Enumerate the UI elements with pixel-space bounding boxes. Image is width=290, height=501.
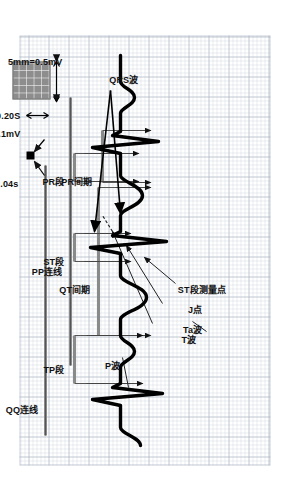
legend-time-large: 5mm=0.20S	[0, 112, 21, 121]
legend-time-small: 1mm=0.04s	[0, 180, 19, 189]
legend-small-box-swatch	[27, 152, 35, 160]
legend-voltage-arrow	[54, 62, 60, 102]
legend-voltage-small: 1mm=0.1mV	[0, 130, 21, 139]
legend-layer	[20, 36, 271, 466]
legend-large-box-swatch	[13, 62, 51, 100]
ecg-diagram-stage: T波 ST段测量点 J点 Ta波 QRS波 P波 TP段 QQ连线 PP连线 S…	[0, 0, 290, 501]
legend-time-arrow	[27, 113, 49, 119]
legend-voltage-large: 5mm=0.5mV	[8, 58, 63, 67]
ecg-figure: T波 ST段测量点 J点 Ta波 QRS波 P波 TP段 QQ连线 PP连线 S…	[20, 36, 271, 466]
legend-dot-leaders	[35, 140, 45, 176]
